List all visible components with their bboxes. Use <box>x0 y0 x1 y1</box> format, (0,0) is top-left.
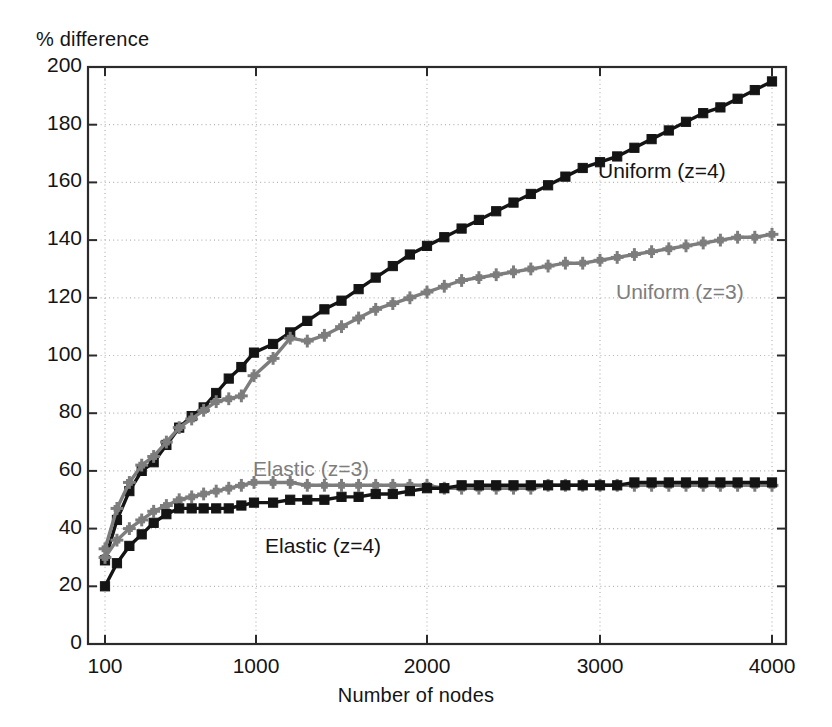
data-point-marker <box>613 481 622 490</box>
data-point-marker <box>224 374 233 383</box>
data-point-marker <box>578 481 587 490</box>
data-point-marker <box>664 126 673 135</box>
gridlines <box>88 67 786 644</box>
data-point-marker <box>595 481 604 490</box>
data-point-marker <box>474 215 483 224</box>
data-point-marker <box>492 481 501 490</box>
data-point-marker <box>767 478 776 487</box>
data-point-marker <box>733 94 742 103</box>
x-tick-label: 100 <box>45 654 165 678</box>
data-point-marker <box>457 481 466 490</box>
y-tick-label: 60 <box>8 457 82 481</box>
data-point-marker <box>422 241 431 250</box>
data-point-marker <box>249 348 258 357</box>
data-point-marker <box>647 135 656 144</box>
data-point-marker <box>354 492 363 501</box>
data-point-marker <box>681 117 690 126</box>
y-tick-label: 0 <box>8 630 82 654</box>
y-tick-label: 160 <box>8 168 82 192</box>
data-point-marker <box>716 103 725 112</box>
data-point-marker <box>405 250 414 259</box>
data-point-marker <box>237 501 246 510</box>
data-point-marker <box>405 487 414 496</box>
data-point-marker <box>699 478 708 487</box>
data-point-marker <box>212 504 221 513</box>
x-tick-label: 1000 <box>196 654 316 678</box>
data-point-marker <box>716 478 725 487</box>
data-point-marker <box>561 172 570 181</box>
data-point-marker <box>474 481 483 490</box>
y-tick-label: 200 <box>8 53 82 77</box>
data-point-marker <box>750 85 759 94</box>
data-point-marker <box>733 478 742 487</box>
data-point-marker <box>337 296 346 305</box>
data-point-marker <box>100 582 109 591</box>
y-tick-label: 20 <box>8 572 82 596</box>
y-tick-label: 80 <box>8 399 82 423</box>
data-point-marker <box>303 316 312 325</box>
data-point-marker <box>249 498 258 507</box>
data-point-marker <box>561 481 570 490</box>
data-point-marker <box>544 181 553 190</box>
data-point-marker <box>320 495 329 504</box>
data-point-marker <box>440 233 449 242</box>
y-tick-label: 180 <box>8 111 82 135</box>
data-point-marker <box>750 478 759 487</box>
series-annotation: Uniform (z=4) <box>598 159 726 183</box>
data-point-marker <box>422 484 431 493</box>
data-point-marker <box>457 224 466 233</box>
data-point-marker <box>509 481 518 490</box>
data-point-marker <box>630 143 639 152</box>
data-point-marker <box>767 77 776 86</box>
data-point-marker <box>492 207 501 216</box>
data-point-marker <box>224 504 233 513</box>
x-tick-label: 2000 <box>367 654 487 678</box>
data-point-marker <box>286 495 295 504</box>
data-point-marker <box>303 495 312 504</box>
y-tick-label: 100 <box>8 342 82 366</box>
data-point-marker <box>162 510 171 519</box>
data-series-layer <box>99 77 779 591</box>
data-point-marker <box>237 362 246 371</box>
data-point-marker <box>664 478 673 487</box>
data-point-marker <box>269 498 278 507</box>
data-point-marker <box>526 189 535 198</box>
data-point-marker <box>526 481 535 490</box>
data-point-marker <box>699 109 708 118</box>
series-annotation: Elastic (z=4) <box>265 534 381 558</box>
data-point-marker <box>269 339 278 348</box>
data-point-marker <box>149 518 158 527</box>
data-point-marker <box>175 504 184 513</box>
data-point-marker <box>371 489 380 498</box>
data-point-marker <box>199 504 208 513</box>
series-annotation: Uniform (z=3) <box>616 280 744 304</box>
chart-figure: % difference 020406080100120140160180200… <box>0 0 832 727</box>
data-point-marker <box>112 559 121 568</box>
data-point-marker <box>354 285 363 294</box>
y-tick-label: 140 <box>8 226 82 250</box>
data-point-marker <box>388 261 397 270</box>
data-point-marker <box>681 478 690 487</box>
data-point-marker <box>187 504 196 513</box>
x-tick-label: 3000 <box>540 654 660 678</box>
y-tick-label: 120 <box>8 284 82 308</box>
x-axis-title: Number of nodes <box>0 684 832 707</box>
data-point-marker <box>440 484 449 493</box>
data-point-marker <box>137 530 146 539</box>
x-tick-label: 4000 <box>712 654 832 678</box>
data-point-marker <box>509 198 518 207</box>
data-point-marker <box>388 489 397 498</box>
data-point-marker <box>630 478 639 487</box>
data-point-marker <box>337 492 346 501</box>
data-point-marker <box>544 481 553 490</box>
data-point-marker <box>125 541 134 550</box>
data-point-marker <box>371 273 380 282</box>
plot-canvas <box>0 0 832 727</box>
y-tick-label: 40 <box>8 515 82 539</box>
data-point-marker <box>578 163 587 172</box>
data-point-marker <box>647 478 656 487</box>
data-point-marker <box>320 305 329 314</box>
series-annotation: Elastic (z=3) <box>253 457 369 481</box>
